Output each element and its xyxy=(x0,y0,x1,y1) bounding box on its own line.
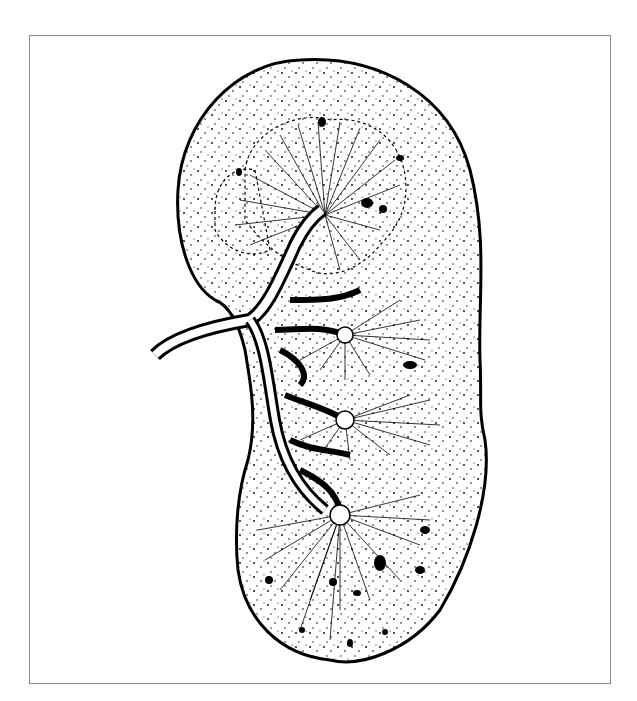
kidney-illustration xyxy=(0,0,637,701)
figure-caption xyxy=(24,693,624,701)
kidney-outline xyxy=(178,60,487,662)
